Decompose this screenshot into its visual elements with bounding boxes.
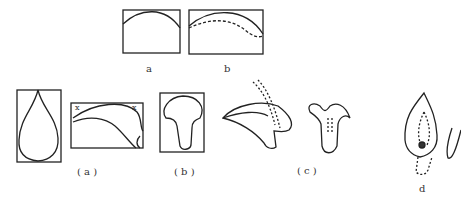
label-a-paren: ( a ): [77, 166, 97, 177]
figure-c-lip: [223, 80, 292, 148]
label-b-top: b: [224, 63, 230, 74]
label-c-paren: ( c ): [297, 165, 317, 176]
figure-a-top: [123, 10, 180, 53]
label-b-paren: ( b ): [174, 166, 195, 177]
cross-marker-right: x: [132, 103, 137, 112]
cross-marker-left: x: [75, 103, 80, 112]
figure-d-bract: [405, 93, 461, 174]
figure-b-top: [189, 10, 263, 54]
label-d: d: [419, 183, 425, 194]
figure-b-mushroom-petal: [160, 93, 204, 152]
figure-c-corolla: [309, 104, 350, 153]
figure-teardrop-petal: [17, 90, 61, 162]
botanical-diagram: [0, 0, 461, 200]
label-a-top: a: [146, 63, 152, 74]
